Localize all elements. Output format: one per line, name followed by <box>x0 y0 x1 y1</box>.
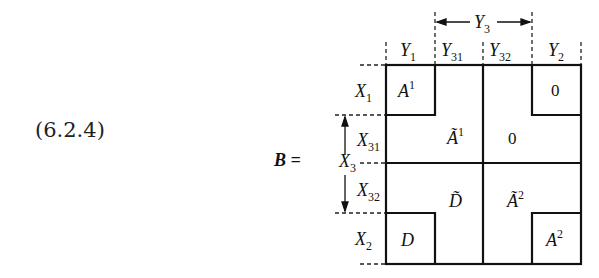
row-label-x32: X32 <box>356 180 380 204</box>
row-label-x31: X31 <box>356 130 380 154</box>
block-zero-top-right: 0 <box>551 81 560 100</box>
block-a2-tilde: Ã2 <box>506 188 524 211</box>
row-label-x3: X3 <box>338 151 356 175</box>
block-a1-tilde: Ã1 <box>446 125 464 148</box>
row-label-x1: X1 <box>354 81 372 105</box>
block-a2: A2 <box>545 227 563 250</box>
col-label-y32: Y32 <box>489 40 511 64</box>
block-d: D <box>400 230 414 250</box>
col-label-y2: Y2 <box>548 40 564 64</box>
block-a1: A1 <box>397 78 415 101</box>
col-label-y1: Y1 <box>400 40 416 64</box>
col-label-y31: Y31 <box>441 40 463 64</box>
matrix-name: B = <box>273 150 301 170</box>
block-matrix-diagram: B = <box>0 0 599 278</box>
col-label-y3: Y3 <box>474 12 490 36</box>
block-d-tilde: D̃ <box>448 191 462 211</box>
block-zero-middle: 0 <box>508 129 517 148</box>
row-label-x2: X2 <box>354 229 372 253</box>
